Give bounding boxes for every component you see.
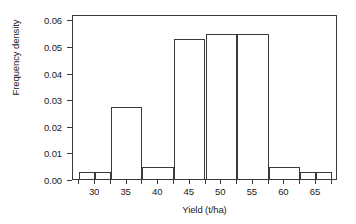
- histogram-bar: [269, 167, 301, 179]
- y-axis-tick-label: 0.02: [44, 121, 62, 132]
- histogram-bar: [300, 172, 316, 179]
- x-axis-tick-mark: [94, 180, 95, 184]
- x-axis-tick-mark: [268, 180, 269, 184]
- histogram-bar: [206, 34, 238, 179]
- x-axis-tick-mark: [110, 180, 111, 184]
- x-axis-tick-label: 60: [278, 186, 288, 197]
- x-axis-tick-mark: [252, 180, 253, 184]
- histogram-bar: [237, 34, 269, 179]
- x-axis-tick-mark: [299, 180, 300, 184]
- x-axis-tick-mark: [141, 180, 142, 184]
- x-axis-tick-label: 65: [310, 186, 320, 197]
- x-axis-tick-mark: [315, 180, 316, 184]
- x-axis-tick-mark: [283, 180, 284, 184]
- histogram-bar: [174, 39, 206, 179]
- y-axis-tick-label: 0.00: [44, 175, 62, 186]
- histogram-bar: [79, 172, 95, 179]
- y-axis-tick-label: 0.01: [44, 148, 62, 159]
- y-axis-tick-label: 0.05: [44, 41, 62, 52]
- x-axis-tick-mark: [331, 180, 332, 184]
- x-axis-tick-labels: 3035404550556065: [72, 186, 337, 202]
- y-axis-tick-labels: 0.000.010.020.030.040.050.06: [0, 0, 72, 224]
- histogram-bar: [316, 172, 332, 179]
- x-axis-tick-mark: [220, 180, 221, 184]
- histogram-bar: [142, 167, 174, 179]
- histogram-bars: [73, 16, 336, 179]
- histogram-bar: [111, 107, 143, 179]
- histogram-figure: Frequency density 0.000.010.020.030.040.…: [0, 0, 356, 224]
- x-axis-tick-mark: [126, 180, 127, 184]
- x-axis-tick-mark: [205, 180, 206, 184]
- y-axis-tick-label: 0.04: [44, 68, 62, 79]
- y-axis-tick-label: 0.03: [44, 95, 62, 106]
- y-axis-tick-label: 0.06: [44, 15, 62, 26]
- plot-area: [72, 15, 337, 180]
- x-axis-tick-mark: [236, 180, 237, 184]
- x-axis-tick-mark: [157, 180, 158, 184]
- x-axis-title: Yield (t/ha): [72, 204, 337, 215]
- x-axis-tick-label: 50: [215, 186, 225, 197]
- x-axis-tick-label: 55: [247, 186, 257, 197]
- x-axis-tick-mark: [173, 180, 174, 184]
- x-axis-tick-label: 40: [152, 186, 162, 197]
- x-axis-tick-label: 45: [184, 186, 194, 197]
- histogram-bar: [95, 172, 111, 179]
- x-axis-tick-mark: [78, 180, 79, 184]
- x-axis-tick-mark: [189, 180, 190, 184]
- x-axis-tick-label: 30: [89, 186, 99, 197]
- x-axis-tick-label: 35: [120, 186, 130, 197]
